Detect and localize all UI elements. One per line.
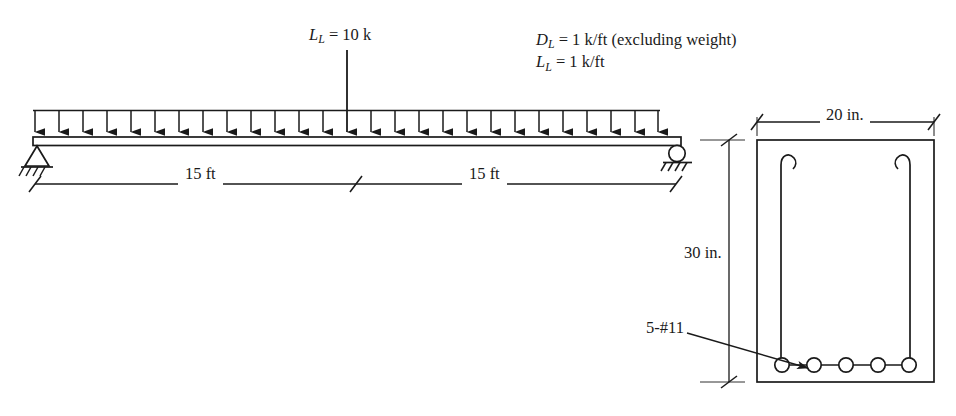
engineering-figure: LL = 10 k DL = 1 k/ft (excluding weight)… <box>0 0 956 416</box>
point-load-label: LL = 10 k <box>309 24 371 46</box>
rebar-callout-label: 5-#11 <box>646 317 684 339</box>
live-load-text: LL = 1 k/ft <box>536 51 737 73</box>
span-left-dimension-label: 15 ft <box>178 163 223 185</box>
beam-member <box>33 137 681 146</box>
span-right-dimension-label: 15 ft <box>462 163 507 185</box>
section-depth-label: 30 in. <box>681 240 725 266</box>
pin-support <box>19 146 53 176</box>
roller-support <box>661 145 692 171</box>
beam-and-section-drawing <box>0 0 956 416</box>
section-width-label: 20 in. <box>820 104 870 126</box>
distributed-load-label: DL = 1 k/ft (excluding weight) LL = 1 k/… <box>536 29 737 74</box>
concrete-section-outline <box>757 140 934 382</box>
dead-load-text: DL = 1 k/ft (excluding weight) <box>536 29 737 51</box>
span-dimension-line <box>29 176 682 192</box>
